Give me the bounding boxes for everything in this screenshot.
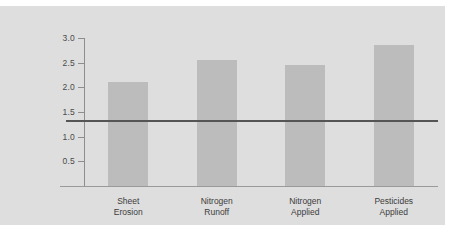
x-category-label-line: Applied bbox=[255, 207, 355, 218]
x-category-label: SheetErosion bbox=[78, 196, 178, 217]
y-tick-label: 0.5 bbox=[63, 156, 75, 166]
x-axis-line bbox=[60, 186, 438, 187]
x-category-label-line: Nitrogen bbox=[167, 196, 267, 207]
x-category-label-line: Nitrogen bbox=[255, 196, 355, 207]
x-category-label-line: Erosion bbox=[78, 207, 178, 218]
bar bbox=[108, 82, 148, 186]
reference-line bbox=[66, 120, 438, 121]
x-category-label-line: Pesticides bbox=[344, 196, 444, 207]
y-tick-label: 3.0 bbox=[63, 33, 75, 43]
y-tick-mark bbox=[78, 38, 84, 39]
chart-figure: Percentage change in indicator from base… bbox=[0, 0, 457, 232]
y-tick-label: 2.5 bbox=[63, 58, 75, 68]
y-tick-label: 2.0 bbox=[63, 82, 75, 92]
x-category-label: NitrogenApplied bbox=[255, 196, 355, 217]
y-axis-line bbox=[84, 38, 85, 186]
x-category-label: NitrogenRunoff bbox=[167, 196, 267, 217]
bar bbox=[374, 45, 414, 186]
y-tick-label: 1.0 bbox=[63, 132, 75, 142]
y-tick-label: 1.5 bbox=[63, 107, 75, 117]
x-category-label-line: Sheet bbox=[78, 196, 178, 207]
y-tick-mark bbox=[78, 63, 84, 64]
x-category-label-line: Applied bbox=[344, 207, 444, 218]
y-tick-mark bbox=[78, 87, 84, 88]
y-tick-mark bbox=[78, 161, 84, 162]
bar bbox=[285, 65, 325, 186]
x-category-label: PesticidesApplied bbox=[344, 196, 444, 217]
x-category-label-line: Runoff bbox=[167, 207, 267, 218]
y-tick-mark bbox=[78, 137, 84, 138]
plot-area: 0.51.01.52.02.53.0 SheetErosionNitrogenR… bbox=[84, 38, 438, 186]
y-tick-mark bbox=[78, 112, 84, 113]
bar bbox=[197, 60, 237, 186]
